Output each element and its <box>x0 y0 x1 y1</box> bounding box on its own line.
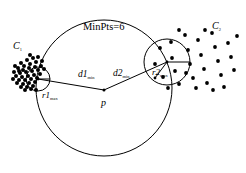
r2max-text: r2 <box>152 67 160 77</box>
data-point <box>153 62 157 66</box>
data-point <box>34 60 38 64</box>
data-point <box>229 55 233 59</box>
data-point <box>39 64 43 68</box>
dbscan-diagram: MinPts=6 C1 C2 p d1min d2min r1max r2max <box>0 0 246 173</box>
data-point <box>26 74 30 78</box>
r2max-center-marker <box>166 61 169 64</box>
data-point <box>169 40 173 44</box>
data-point <box>28 62 32 66</box>
data-point <box>186 48 190 52</box>
data-point <box>235 34 239 38</box>
data-point <box>202 67 206 71</box>
cluster-c2-subscript: 2 <box>219 27 221 32</box>
data-point <box>29 87 33 91</box>
data-point <box>158 46 162 50</box>
r1max-label: r1max <box>42 91 58 100</box>
data-point <box>24 70 28 74</box>
data-point <box>27 66 31 70</box>
data-point <box>33 80 37 84</box>
data-point <box>36 55 40 59</box>
cluster-c1-text: C <box>13 40 20 51</box>
point-p-marker <box>103 89 106 92</box>
data-point <box>188 62 192 66</box>
data-point <box>199 53 203 57</box>
data-point <box>40 59 44 63</box>
data-point <box>13 64 17 68</box>
data-point <box>33 65 37 69</box>
r2max-label: r2max <box>152 68 168 77</box>
data-point <box>19 85 23 89</box>
cluster-c1-label: C1 <box>13 41 22 51</box>
data-point <box>183 33 187 37</box>
data-point <box>226 41 230 45</box>
data-point <box>38 72 42 76</box>
data-point <box>15 81 19 85</box>
data-point <box>35 76 39 80</box>
data-point <box>210 31 214 35</box>
data-point <box>23 78 27 82</box>
data-point <box>211 88 215 92</box>
data-point <box>30 69 34 73</box>
data-point <box>219 73 223 77</box>
data-point <box>36 68 40 72</box>
point-p-label: p <box>101 98 106 108</box>
d1min-label: d1min <box>78 70 95 80</box>
d2min-label: d2min <box>113 69 130 79</box>
data-point <box>213 45 217 49</box>
data-point <box>173 69 177 73</box>
data-point <box>19 61 23 65</box>
cluster-c1-subscript: 1 <box>20 47 22 52</box>
data-point <box>170 56 174 60</box>
minpts-label: MinPts=6 <box>83 22 125 33</box>
data-point <box>196 38 200 42</box>
r1max-text: r1 <box>42 90 50 100</box>
data-point <box>23 88 27 92</box>
data-point <box>34 88 38 92</box>
data-point <box>20 75 24 79</box>
data-point <box>17 69 21 73</box>
data-point <box>28 53 32 57</box>
data-point <box>205 81 209 85</box>
data-point <box>22 64 26 68</box>
data-point <box>232 68 236 72</box>
cluster-c2-text: C <box>212 20 219 31</box>
data-point <box>191 76 195 80</box>
data-point <box>25 58 29 62</box>
data-point <box>12 70 16 74</box>
r2max-subscript: max <box>160 73 168 78</box>
data-point <box>32 73 36 77</box>
d2min-text: d2 <box>113 68 123 78</box>
data-point <box>31 56 35 60</box>
data-point <box>203 28 207 32</box>
data-point <box>177 82 181 86</box>
minpts-neighborhood-circle <box>36 20 172 156</box>
d1min-text: d1 <box>78 69 88 79</box>
data-point <box>166 86 170 90</box>
data-point <box>11 77 15 81</box>
data-point <box>42 67 46 71</box>
data-point <box>216 59 220 63</box>
data-point <box>177 28 181 32</box>
d1min-segment <box>38 79 104 90</box>
data-point <box>194 86 198 90</box>
r1max-subscript: max <box>50 96 58 101</box>
data-point <box>14 74 18 78</box>
data-point <box>222 85 226 89</box>
d2min-subscript: min <box>123 74 130 79</box>
data-point <box>29 77 33 81</box>
d1min-subscript: min <box>88 75 95 80</box>
r2max-leader-endpoint <box>154 77 157 80</box>
data-point <box>184 71 188 75</box>
data-point <box>27 81 31 85</box>
cluster-c2-label: C2 <box>212 21 221 31</box>
